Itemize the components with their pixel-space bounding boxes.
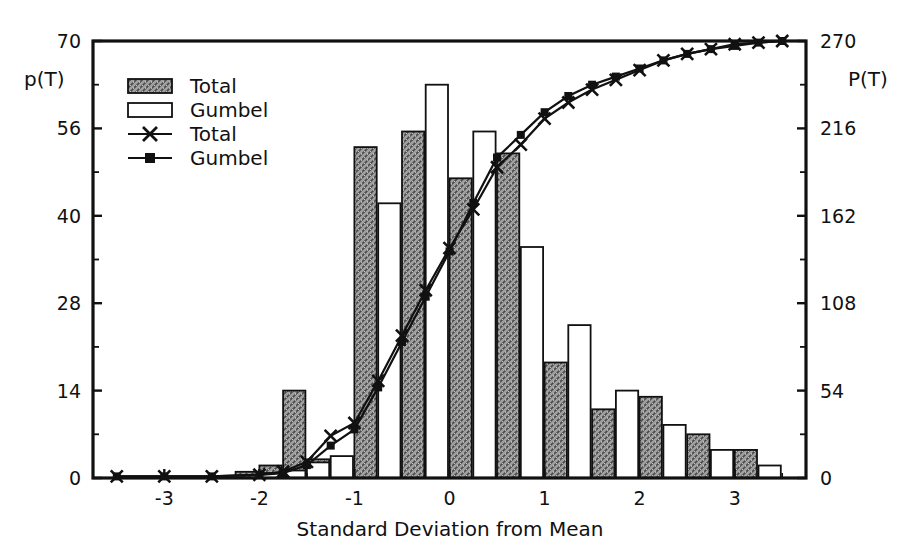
- marker-square-icon: [731, 42, 739, 50]
- chart-canvas: -3-2-1012301428405670054108162216270 Tot…: [0, 0, 914, 557]
- legend-swatch-hatched: [128, 79, 172, 93]
- x-tick-label: 2: [634, 487, 646, 509]
- marker-square-icon: [446, 247, 454, 255]
- y-tick-label-left: 40: [57, 205, 81, 227]
- marker-square-icon: [327, 442, 335, 450]
- legend-item: Gumbel: [128, 146, 268, 170]
- legend-marker-square-icon: [145, 153, 155, 163]
- x-tick-label: 3: [729, 487, 741, 509]
- marker-square-icon: [350, 425, 358, 433]
- bar-gumbel: [711, 450, 733, 478]
- bar-gumbel: [331, 456, 353, 478]
- legend-label: Gumbel: [190, 98, 268, 122]
- marker-square-icon: [683, 50, 691, 58]
- y-tick-label-right: 162: [820, 205, 856, 227]
- bar-gumbel: [759, 466, 781, 479]
- y-tick-label-right: 216: [820, 117, 856, 139]
- y-tick-label-right: 270: [820, 30, 856, 52]
- marker-square-icon: [588, 81, 596, 89]
- bar-gumbel: [616, 391, 638, 478]
- marker-square-icon: [612, 73, 620, 81]
- legend-label: Total: [189, 122, 237, 146]
- legend-swatch-white: [128, 103, 172, 117]
- marker-square-icon: [374, 383, 382, 391]
- y-tick-label-left: 56: [57, 117, 81, 139]
- marker-square-icon: [636, 65, 644, 73]
- y-tick-label-left: 28: [57, 292, 81, 314]
- marker-x-icon: [325, 430, 337, 442]
- marker-square-icon: [517, 131, 525, 139]
- y-tick-label-right: 54: [820, 380, 844, 402]
- x-tick-label: -2: [250, 487, 269, 509]
- bar-total: [592, 409, 614, 478]
- marker-square-icon: [422, 293, 430, 301]
- bar-total: [640, 397, 662, 478]
- bar-gumbel: [521, 247, 543, 478]
- bar-total: [497, 153, 519, 478]
- x-tick-label: -3: [155, 487, 174, 509]
- x-tick-label: 1: [539, 487, 551, 509]
- chart-figure: -3-2-1012301428405670054108162216270 Tot…: [0, 0, 914, 557]
- marker-square-icon: [564, 92, 572, 100]
- marker-square-icon: [493, 154, 501, 162]
- marker-square-icon: [541, 108, 549, 116]
- bar-gumbel: [663, 425, 685, 478]
- y-tick-label-left: 70: [57, 30, 81, 52]
- y-tick-label-right: 0: [820, 467, 832, 489]
- legend-label: Gumbel: [190, 146, 268, 170]
- marker-square-icon: [279, 469, 287, 477]
- bar-total: [735, 450, 757, 478]
- x-tick-label: 0: [443, 487, 455, 509]
- chart-legend: TotalGumbelTotalGumbel: [128, 74, 268, 170]
- x-tick-label: -1: [345, 487, 364, 509]
- y-axis-label-right: P(T): [848, 67, 888, 91]
- legend-item: Total: [128, 74, 237, 98]
- y-tick-label-left: 14: [57, 380, 81, 402]
- marker-square-icon: [707, 45, 715, 53]
- legend-item: Gumbel: [128, 98, 268, 122]
- marker-square-icon: [659, 56, 667, 64]
- legend-label: Total: [189, 74, 237, 98]
- bar-total: [450, 178, 472, 478]
- y-tick-label-left: 0: [69, 467, 81, 489]
- bar-total: [545, 363, 567, 479]
- y-axis-label-left: p(T): [24, 67, 65, 91]
- x-axis-title: Standard Deviation from Mean: [297, 517, 604, 541]
- marker-square-icon: [303, 461, 311, 469]
- legend-item: Total: [128, 122, 237, 146]
- bar-group: [236, 85, 781, 478]
- bar-gumbel: [426, 85, 448, 478]
- bar-gumbel: [568, 325, 590, 478]
- marker-square-icon: [469, 199, 477, 207]
- y-tick-label-right: 108: [820, 292, 856, 314]
- bar-total: [687, 434, 709, 478]
- marker-square-icon: [398, 338, 406, 346]
